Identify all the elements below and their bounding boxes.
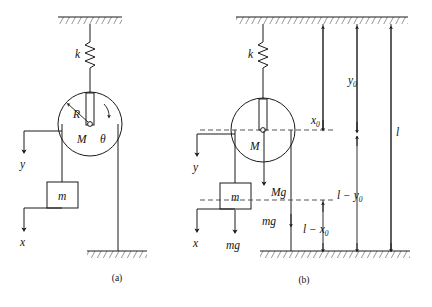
axis-y-label-a: y bbox=[19, 158, 26, 171]
axis-y-a bbox=[24, 131, 62, 152]
pulley-axle-housing-b bbox=[259, 99, 267, 130]
mass-block-label-a: m bbox=[58, 190, 66, 202]
pulley-radius-label-a: R bbox=[72, 108, 80, 120]
mass-weight-label-b: mg bbox=[226, 239, 240, 252]
pulley-axle-housing-a bbox=[86, 93, 94, 125]
panel-caption-a: (a) bbox=[112, 273, 123, 284]
mass-block-label-b: m bbox=[231, 191, 239, 203]
pulley-mass-label-a: M bbox=[76, 133, 88, 145]
ceiling-support-a bbox=[58, 17, 122, 24]
spring-a bbox=[85, 24, 95, 93]
spring-constant-label-b: k bbox=[248, 48, 254, 60]
figure-root: k R M θ y m x bbox=[0, 0, 432, 307]
panel-a: k R M θ y m x bbox=[19, 17, 147, 284]
rotation-arc-arrow-a bbox=[104, 104, 109, 117]
dimension-y0-label: y0 bbox=[347, 74, 357, 89]
spring-b bbox=[258, 24, 268, 99]
cord-weight-label-b: mg bbox=[262, 215, 276, 228]
rotation-angle-label-a: θ bbox=[100, 133, 106, 145]
panel-caption-b: (b) bbox=[298, 275, 309, 286]
axis-y-b bbox=[197, 134, 235, 155]
dimension-l-minus-x0-label: l − x0 bbox=[303, 223, 329, 238]
axis-x-label-b: x bbox=[192, 237, 199, 249]
spring-constant-label-a: k bbox=[75, 48, 81, 60]
ground-support-a bbox=[87, 251, 147, 258]
dimension-x0-label: x0 bbox=[310, 114, 320, 129]
pulley-weight-label-b: Mg bbox=[270, 186, 287, 199]
panel-b: k M Mg mg y m x bbox=[192, 17, 410, 286]
axis-x-b bbox=[197, 209, 235, 231]
axis-y-label-b: y bbox=[192, 161, 199, 174]
axis-x-a bbox=[24, 208, 62, 230]
dimension-l-label: l bbox=[396, 126, 399, 138]
ground-support-b bbox=[260, 251, 410, 258]
axis-x-label-a: x bbox=[19, 236, 26, 248]
ceiling-support-b bbox=[236, 17, 408, 24]
dimension-l-minus-y0-label: l − y0 bbox=[337, 189, 363, 204]
pulley-mass-label-b: M bbox=[249, 140, 261, 152]
physics-diagram-svg: k R M θ y m x bbox=[0, 0, 432, 307]
pulley-axle-a bbox=[88, 122, 93, 127]
